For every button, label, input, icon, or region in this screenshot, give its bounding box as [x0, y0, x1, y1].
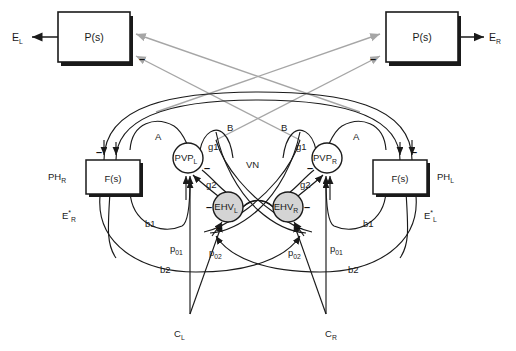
label-p02-left-sub: 02 [214, 253, 222, 260]
path-inner-arc [116, 100, 400, 160]
label-c-right: CR [325, 328, 337, 341]
pvp-right-node[interactable]: PVPR [312, 143, 342, 173]
plant-left-block[interactable]: P(s) [58, 12, 133, 66]
label-gain-vn: VN [246, 159, 259, 170]
label-ph-left: PHL [437, 171, 454, 184]
gray-path-left-to-right-lower [216, 56, 380, 140]
label-e-right: ER [489, 31, 501, 45]
ehv-right-base: EHV [274, 201, 294, 212]
minus-pvp-right: – [307, 162, 313, 174]
pvp-right-sub: R [332, 158, 337, 165]
label-gain-p02-right: p02 [288, 247, 301, 260]
label-gain-B-right: B [281, 122, 287, 133]
label-gain-b1-left: b1 [145, 218, 156, 229]
plant-left-label: P(s) [84, 31, 103, 43]
label-gain-b2-right: b2 [348, 264, 359, 275]
filter-right-block[interactable]: F(s) [373, 160, 430, 197]
label-gain-g2-left: g2 [206, 179, 217, 190]
ehv-left-sub: L [234, 207, 238, 214]
path-b2-left [100, 196, 300, 272]
label-estar-right: E*R [62, 209, 76, 223]
pvp-right-base: PVP [313, 152, 332, 163]
label-c-left: CL [174, 328, 185, 341]
label-gain-A-right: A [353, 131, 360, 142]
diagram-root: P(s) P(s) F(s) F(s) PVPL PVPR [0, 0, 516, 351]
label-gain-b1-right: b1 [363, 218, 374, 229]
label-gain-p01-right: p01 [330, 243, 343, 256]
label-ph-right-sub: R [61, 177, 66, 184]
label-ph-left-base: PH [437, 171, 450, 182]
path-p02-left [190, 224, 222, 314]
path-estar-right [108, 192, 116, 258]
pvp-left-sub: L [194, 158, 198, 165]
label-e-left: EL [12, 31, 23, 45]
label-gain-A-left: A [155, 131, 162, 142]
plant-right-block[interactable]: P(s) [386, 12, 461, 66]
path-outer-arc-left [104, 92, 412, 160]
minus-pvp-left: – [204, 162, 210, 174]
path-estar-left [400, 192, 408, 258]
minus-ehv-left-bottom: – [216, 222, 222, 234]
minus-plant-right: – [370, 53, 376, 65]
ehv-left-base: EHV [214, 201, 234, 212]
filter-left-label: F(s) [105, 173, 122, 184]
label-gain-g1-left: g1 [208, 141, 219, 152]
label-p02-right-sub: 02 [293, 253, 301, 260]
label-estar-right-star: * [68, 209, 71, 216]
label-e-left-base: E [12, 31, 19, 43]
path-p02-right [294, 224, 326, 314]
label-gain-g2-right: g2 [300, 179, 311, 190]
pvp-left-base: PVP [175, 152, 194, 163]
ehv-right-sub: R [293, 207, 298, 214]
plant-right-label: P(s) [412, 31, 431, 43]
minus-ehv-left: – [206, 201, 212, 213]
label-gain-p02-left: p02 [209, 247, 222, 260]
black-signal-paths [100, 92, 417, 314]
label-c-right-sub: R [332, 334, 337, 341]
label-estar-left-star: * [430, 209, 433, 216]
label-c-left-sub: L [181, 334, 185, 341]
label-gain-b2-left: b2 [160, 264, 171, 275]
minus-signs-group: – – – – – – – – – – [96, 53, 417, 234]
label-estar-left-sub: L [433, 216, 437, 223]
label-p01-right-sub: 01 [335, 249, 343, 256]
label-estar-left: E*L [424, 209, 437, 223]
label-gain-g1-right: g1 [296, 141, 307, 152]
label-e-left-sub: L [19, 38, 23, 45]
minus-filter-left: – [96, 146, 102, 158]
label-gain-B-left: B [227, 122, 233, 133]
path-b2-right [216, 196, 416, 272]
label-gain-p01-left: p01 [170, 243, 183, 256]
ehv-right-node[interactable]: EHVR [273, 192, 303, 222]
label-e-right-base: E [489, 31, 496, 43]
label-estar-right-sub: R [71, 216, 76, 223]
label-e-right-sub: R [496, 38, 501, 45]
diagram-canvas: P(s) P(s) F(s) F(s) PVPL PVPR [0, 0, 516, 351]
label-ph-left-sub: L [450, 177, 454, 184]
minus-ehv-right-bottom: – [296, 222, 302, 234]
filter-left-block[interactable]: F(s) [86, 160, 143, 197]
label-ph-right-base: PH [48, 171, 61, 182]
ehv-left-node[interactable]: EHVL [213, 192, 243, 222]
pvp-left-node[interactable]: PVPL [173, 143, 203, 173]
minus-plant-left: – [139, 53, 145, 65]
gray-crossing-paths [136, 34, 380, 140]
filter-right-label: F(s) [392, 173, 409, 184]
gray-path-right-to-left-lower [136, 56, 300, 140]
minus-ehv-right: – [304, 201, 310, 213]
label-p01-left-sub: 01 [175, 249, 183, 256]
minus-filter-right: – [411, 146, 417, 158]
label-ph-right: PHR [48, 171, 66, 184]
